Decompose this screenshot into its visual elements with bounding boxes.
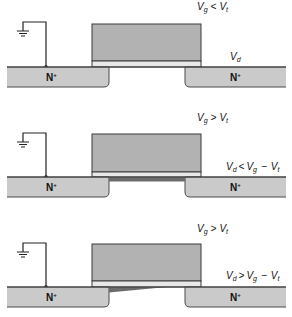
ground-connection (17, 22, 48, 69)
gate-electrode (92, 134, 201, 172)
drain-condition-label: Vd>Vg−Vt (226, 270, 281, 283)
panel-saturation: Vg>Vt N+ N+ Vd>Vg−Vt (7, 223, 286, 307)
gate-electrode (92, 24, 201, 61)
ground-connection (17, 133, 48, 179)
drain-condition-label: Vd<Vg−Vt (226, 161, 281, 174)
ground-icon (17, 31, 29, 36)
gate-electrode (92, 244, 201, 281)
gate-oxide (92, 172, 201, 177)
gate-condition-label: Vg>Vt (197, 223, 229, 236)
gate-condition-label: Vg>Vt (197, 112, 229, 125)
gate-condition-label: Vg<Vt (197, 1, 229, 14)
drain-condition-label: Vd (230, 51, 242, 63)
ground-icon (17, 142, 29, 147)
source-wire (23, 243, 46, 287)
gate-oxide (92, 281, 201, 287)
panel-linear: Vg>Vt N+ N+ Vd<Vg−Vt (7, 112, 286, 197)
mosfet-channel-diagram: Vg<Vt N+ N+ Vd Vg>Vt (0, 0, 292, 317)
ground-connection (17, 243, 48, 289)
source-wire (23, 22, 46, 67)
panel-cutoff: Vg<Vt N+ N+ Vd (7, 1, 286, 87)
gate-oxide (92, 61, 201, 67)
source-wire (23, 133, 46, 177)
pinched-off-channel (109, 287, 167, 293)
source-n-plus-region (7, 67, 109, 87)
inversion-channel (109, 177, 185, 182)
ground-icon (17, 252, 29, 257)
source-n-plus-region (7, 287, 109, 307)
source-n-plus-region (7, 177, 109, 197)
